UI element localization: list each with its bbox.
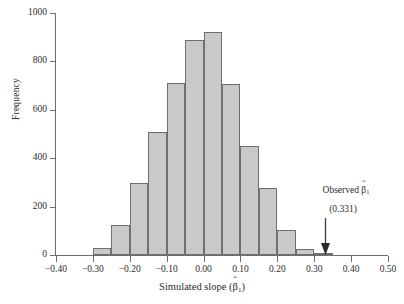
x-tick-mark bbox=[167, 256, 168, 262]
histogram-bar bbox=[185, 40, 203, 255]
x-tick-mark bbox=[351, 256, 352, 262]
x-hat-accent-icon: ˆ bbox=[233, 275, 238, 286]
histogram-bar bbox=[130, 183, 148, 255]
xlabel-suffix: ) bbox=[241, 281, 245, 292]
histogram-bar bbox=[204, 32, 222, 255]
observed-slope-arrow-icon bbox=[313, 218, 339, 256]
histogram-bar bbox=[148, 132, 166, 255]
observed-slope-annotation-label: Observed ˆβ1 bbox=[288, 185, 404, 195]
x-tick-label: 0.50 bbox=[365, 265, 404, 275]
histogram-bar bbox=[240, 146, 258, 255]
histogram-bar bbox=[167, 83, 185, 255]
y-tick-label: 600 bbox=[33, 105, 47, 115]
x-tick-mark bbox=[314, 256, 315, 262]
y-tick-label: 800 bbox=[33, 56, 47, 66]
x-beta-subscript: 1 bbox=[238, 286, 242, 294]
annotation-prefix: Observed bbox=[323, 185, 362, 195]
y-tick-label: 200 bbox=[33, 202, 47, 212]
x-tick-mark bbox=[93, 256, 94, 262]
observed-slope-value: (0.331) bbox=[288, 204, 398, 214]
xlabel-prefix: Simulated slope ( bbox=[159, 281, 233, 292]
y-axis-title: Frequency bbox=[11, 39, 21, 159]
y-tick-label: 1000 bbox=[28, 8, 47, 18]
histogram-figure: Frequency 02004006008001000 −0.40−0.30−0… bbox=[0, 0, 404, 304]
histogram-bar bbox=[277, 230, 295, 255]
x-tick-mark bbox=[240, 256, 241, 262]
histogram-bar bbox=[259, 188, 277, 255]
y-tick-label: 0 bbox=[42, 250, 47, 260]
histogram-bar bbox=[222, 84, 240, 255]
beta-subscript: 1 bbox=[366, 188, 369, 195]
x-axis-title: Simulated slope (ˆβ1) bbox=[0, 281, 404, 292]
x-tick-mark bbox=[204, 256, 205, 262]
x-tick-mark bbox=[388, 256, 389, 262]
x-tick-mark bbox=[130, 256, 131, 262]
histogram-bar bbox=[296, 249, 314, 255]
x-tick-mark bbox=[277, 256, 278, 262]
histogram-bar bbox=[111, 225, 129, 255]
histogram-bar bbox=[93, 248, 111, 255]
y-tick-label: 400 bbox=[33, 153, 47, 163]
x-tick-mark bbox=[56, 256, 57, 262]
